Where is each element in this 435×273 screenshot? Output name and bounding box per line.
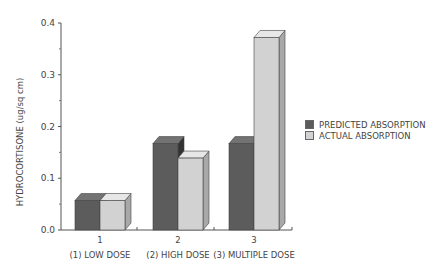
bar-actual-3 [254,30,285,230]
x-tick-label: 3 [251,235,256,245]
legend-item-actual: ACTUAL ABSORPTION [305,130,426,141]
y-tick-label: 0.3 [41,70,55,80]
legend-item-predicted: PREDICTED ABSORPTION [305,119,426,130]
x-tick-label: 2 [175,235,180,245]
legend-label-actual: ACTUAL ABSORPTION [319,131,411,141]
category-description: (1) LOW DOSE [70,250,131,260]
y-tick-label: 0.2 [41,122,55,132]
bar-actual-2 [178,151,209,230]
x-tick-label: 1 [97,235,102,245]
category-description: (2) HIGH DOSE [146,250,209,260]
y-axis-label: HYDROCORTISONE (ug/sq cm) [15,78,25,207]
bar-actual-1 [100,194,131,230]
legend-swatch-predicted [305,120,314,129]
legend-label-predicted: PREDICTED ABSORPTION [319,120,426,130]
y-tick-label: 0.1 [41,173,55,183]
y-tick-label: 0.4 [41,18,56,28]
bars [75,30,285,230]
legend-swatch-actual [305,131,314,140]
legend: PREDICTED ABSORPTION ACTUAL ABSORPTION [305,119,426,141]
y-tick-label: 0.0 [41,225,56,235]
category-description: (3) MULTIPLE DOSE [213,250,295,260]
